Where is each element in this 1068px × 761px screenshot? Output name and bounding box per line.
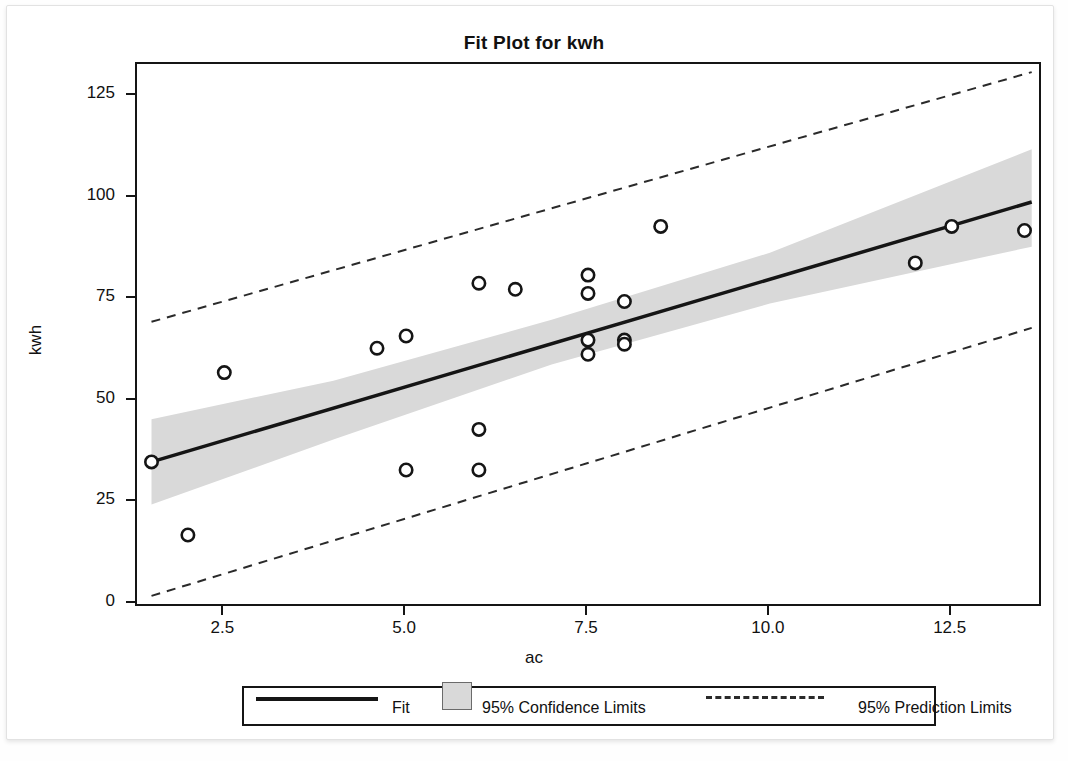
data-point [946, 220, 958, 232]
data-point [582, 348, 594, 360]
fit-plot-svg [137, 64, 1039, 604]
y-tick-label: 100 [45, 185, 115, 205]
data-point [582, 269, 594, 281]
confidence-band [152, 149, 1032, 504]
y-axis-label: kwh [26, 295, 46, 385]
y-tick-label: 25 [45, 489, 115, 509]
x-tick-mark [585, 606, 587, 615]
legend-label-fit: Fit [392, 699, 410, 717]
data-point [618, 338, 630, 350]
y-tick-mark [126, 296, 135, 298]
prediction-upper-line [152, 72, 1032, 322]
x-tick-mark [949, 606, 951, 615]
y-tick-label: 125 [45, 83, 115, 103]
y-tick-mark [126, 499, 135, 501]
y-tick-mark [126, 398, 135, 400]
legend-label-confidence: 95% Confidence Limits [482, 699, 646, 717]
data-point [218, 366, 230, 378]
y-tick-label: 0 [45, 591, 115, 611]
y-tick-label: 50 [45, 388, 115, 408]
x-tick-label: 2.5 [187, 618, 257, 638]
fit-line-swatch [256, 697, 378, 701]
data-point [371, 342, 383, 354]
data-point [473, 423, 485, 435]
x-tick-label: 5.0 [369, 618, 439, 638]
y-tick-mark [126, 601, 135, 603]
data-point [400, 464, 412, 476]
fit-line [152, 202, 1032, 462]
legend: Fit 95% Confidence Limits 95% Prediction… [242, 686, 936, 726]
y-tick-mark [126, 93, 135, 95]
data-point [909, 257, 921, 269]
page-title: Fit Plot for kwh [0, 32, 1068, 54]
y-tick-label: 75 [45, 286, 115, 306]
plot-area [135, 62, 1041, 606]
data-point [473, 464, 485, 476]
data-point [145, 456, 157, 468]
data-point [582, 334, 594, 346]
data-point [655, 220, 667, 232]
prediction-lower-line [152, 328, 1032, 596]
x-tick-mark [403, 606, 405, 615]
y-tick-mark [126, 195, 135, 197]
legend-label-prediction: 95% Prediction Limits [858, 699, 1012, 717]
data-point [1018, 224, 1030, 236]
prediction-line-swatch [706, 696, 824, 699]
x-tick-label: 7.5 [551, 618, 621, 638]
confidence-band-swatch [442, 682, 472, 710]
x-tick-label: 10.0 [733, 618, 803, 638]
page-canvas: Fit Plot for kwh 0255075100125 kwh 2.55.… [0, 0, 1068, 761]
x-tick-mark [767, 606, 769, 615]
data-point [618, 295, 630, 307]
x-tick-label: 12.5 [915, 618, 985, 638]
data-point [509, 283, 521, 295]
data-point [582, 287, 594, 299]
x-tick-mark [221, 606, 223, 615]
data-point [473, 277, 485, 289]
x-axis-label: ac [0, 648, 1068, 668]
data-point [182, 529, 194, 541]
data-point [400, 330, 412, 342]
